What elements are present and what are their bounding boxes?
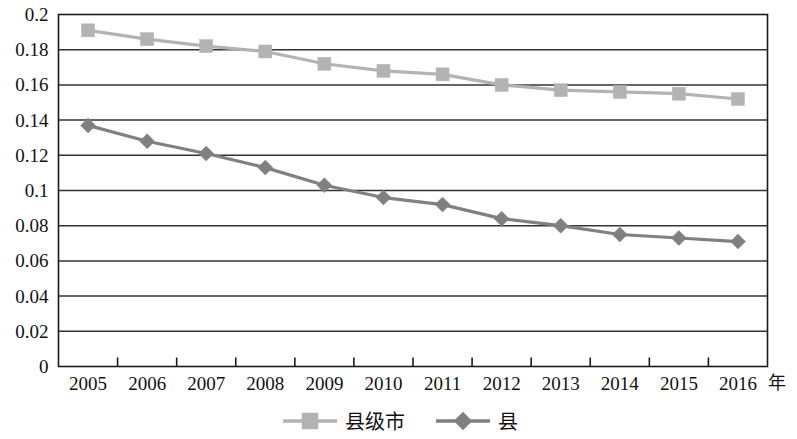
data-point-marker bbox=[554, 84, 567, 97]
y-axis-tick-label: 0.14 bbox=[15, 110, 49, 131]
x-axis-tick-label: 2012 bbox=[483, 373, 521, 394]
data-point-marker bbox=[318, 57, 331, 70]
x-axis-tick-label: 2016 bbox=[719, 373, 757, 394]
y-axis-tick-label: 0.02 bbox=[15, 321, 48, 342]
y-axis-tick-label: 0.2 bbox=[25, 4, 49, 25]
y-axis-tick-label: 0.04 bbox=[15, 286, 49, 307]
y-axis-tick-label: 0.12 bbox=[15, 145, 48, 166]
y-axis-tick-label: 0.06 bbox=[15, 250, 48, 271]
x-axis-tick-label: 2006 bbox=[128, 373, 166, 394]
legend-label-1[interactable]: 县级市 bbox=[345, 411, 405, 433]
x-axis-tick-label: 2008 bbox=[246, 373, 284, 394]
data-point-marker bbox=[436, 68, 449, 81]
legend-marker-1[interactable] bbox=[302, 413, 318, 429]
x-axis-unit-label: 年 bbox=[768, 373, 786, 393]
data-point-marker bbox=[613, 85, 626, 98]
x-axis-tick-label: 2013 bbox=[542, 373, 580, 394]
x-axis-tick-label: 2014 bbox=[601, 373, 640, 394]
line-chart: 00.020.040.060.080.10.120.140.160.180.2 … bbox=[0, 0, 797, 439]
x-axis-tick-label: 2009 bbox=[305, 373, 343, 394]
y-axis-tick-label: 0.16 bbox=[15, 74, 48, 95]
data-point-marker bbox=[495, 78, 508, 91]
data-point-marker bbox=[141, 33, 154, 46]
data-point-marker bbox=[82, 24, 95, 37]
x-axis-tick-label: 2007 bbox=[187, 373, 225, 394]
legend-label-2[interactable]: 县 bbox=[498, 411, 518, 433]
x-axis-tick-label: 2011 bbox=[424, 373, 461, 394]
x-axis-tick-label: 2015 bbox=[660, 373, 698, 394]
x-axis-tick-label: 2010 bbox=[364, 373, 402, 394]
y-axis-tick-label: 0 bbox=[39, 356, 49, 377]
data-point-marker bbox=[377, 64, 390, 77]
x-axis-tick-label: 2005 bbox=[69, 373, 107, 394]
y-axis-tick-label: 0.1 bbox=[25, 180, 49, 201]
data-point-marker bbox=[200, 40, 213, 53]
y-axis-tick-label: 0.08 bbox=[15, 215, 48, 236]
data-point-marker bbox=[259, 45, 272, 58]
chart-container: 00.020.040.060.080.10.120.140.160.180.2 … bbox=[0, 0, 797, 439]
y-axis-tick-label: 0.18 bbox=[15, 39, 48, 60]
data-point-marker bbox=[672, 87, 685, 100]
data-point-marker bbox=[731, 92, 744, 105]
